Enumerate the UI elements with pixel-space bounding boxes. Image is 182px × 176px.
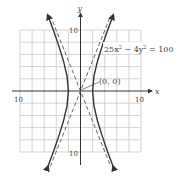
x-tick-right: 10 <box>135 96 144 104</box>
axes <box>12 13 152 165</box>
hyperbola-graph: x y 10 10 10 10 25x2 − 4y2 = 100 (0, 0) <box>0 0 182 176</box>
y-axis-label: y <box>77 4 83 13</box>
x-axis-label: x <box>155 87 160 96</box>
y-tick-bottom: 10 <box>69 150 78 158</box>
center-pointer <box>81 82 99 90</box>
center-label: (0, 0) <box>99 77 121 86</box>
equation-label: 25x2 − 4y2 = 100 <box>103 42 179 54</box>
y-tick-top: 10 <box>69 27 78 35</box>
x-tick-left: 10 <box>14 96 23 104</box>
svg-text:25x2 − 4y2 = 100: 25x2 − 4y2 = 100 <box>104 44 174 54</box>
